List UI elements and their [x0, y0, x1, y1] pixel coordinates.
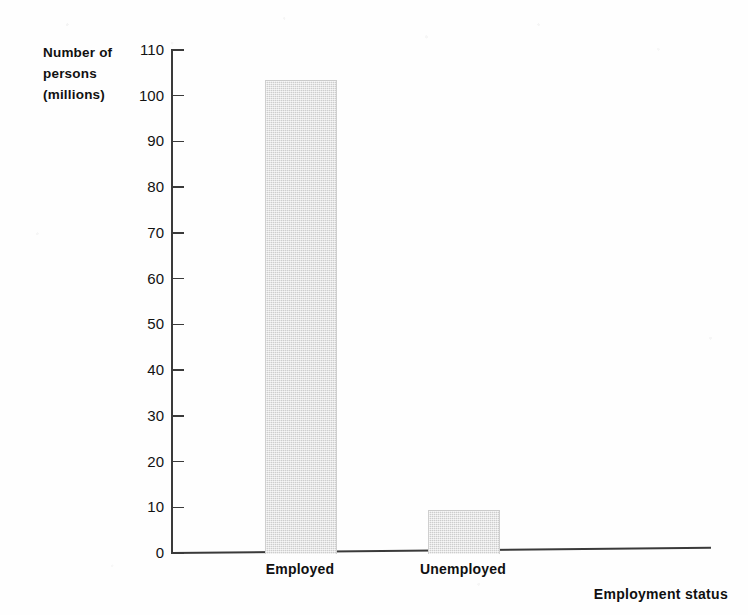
y-axis-tick: [171, 461, 184, 462]
y-axis-tick: [171, 95, 184, 96]
y-axis-tick-label: 80: [130, 178, 164, 194]
y-axis-tick-label: 60: [130, 270, 164, 286]
y-axis-tick: [171, 507, 184, 508]
y-axis-tick-label: 10: [130, 498, 164, 514]
y-axis-title: Number of persons (millions): [43, 42, 138, 105]
y-axis-tick-label-text: 60: [130, 270, 164, 287]
y-axis-tick-label: 50: [130, 315, 164, 331]
y-axis-tick-label: 110: [130, 41, 164, 57]
y-axis-line: [171, 50, 173, 554]
y-axis-tick-label-text: 70: [130, 224, 164, 241]
y-axis-tick-label-text: 80: [130, 178, 164, 195]
y-axis-tick-label-text: 90: [130, 132, 164, 149]
y-axis-tick: [171, 278, 184, 279]
x-axis-title: Employment status: [594, 586, 728, 602]
y-axis-title-line-1: Number of: [43, 42, 138, 63]
y-axis-tick-label: 30: [130, 407, 164, 423]
y-axis-tick: [171, 324, 184, 325]
y-axis-tick: [171, 415, 184, 416]
y-axis-tick-label-text: 0: [130, 544, 164, 561]
y-axis-tick-label-text: 10: [130, 498, 164, 515]
y-axis-tick-label: 100: [130, 87, 164, 103]
y-axis-tick-label-text: 40: [130, 361, 164, 378]
bar-unemployed: [428, 510, 500, 554]
y-axis-tick-label-text: 100: [130, 87, 164, 104]
y-axis-tick: [171, 552, 184, 553]
y-axis-tick-label: 20: [130, 453, 164, 469]
y-axis-tick-label-text: 20: [130, 453, 164, 470]
y-axis-tick-label: 90: [130, 132, 164, 148]
y-axis-tick-label: 0: [130, 544, 164, 560]
y-axis-tick-label: 70: [130, 224, 164, 240]
y-axis-title-line-3: (millions): [43, 84, 138, 105]
category-label-employed: Employed: [220, 561, 380, 577]
y-axis-tick: [171, 49, 184, 50]
category-label-unemployed: Unemployed: [383, 561, 543, 577]
y-axis-tick: [171, 369, 184, 370]
y-axis-tick: [171, 232, 184, 233]
y-axis-title-line-2: persons: [43, 63, 138, 84]
y-axis-tick-label: 40: [130, 361, 164, 377]
y-axis-tick-label-text: 110: [130, 41, 164, 58]
bar-employed: [265, 80, 337, 554]
y-axis-tick: [171, 141, 184, 142]
y-axis-tick: [171, 186, 184, 187]
y-axis-tick-label-text: 50: [130, 315, 164, 332]
bar-chart-figure: Number of persons (millions) 01020304050…: [0, 0, 748, 615]
y-axis-tick-label-text: 30: [130, 407, 164, 424]
